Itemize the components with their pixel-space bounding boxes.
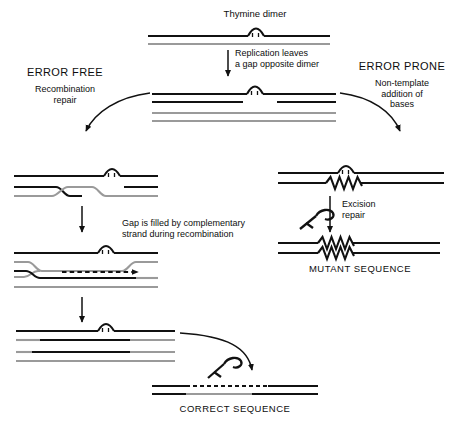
error-prone-heading: ERROR PRONE (352, 60, 452, 73)
thymine-dimer-arch-icon (248, 29, 264, 37)
correct-sequence-caption: CORRECT SEQUENCE (155, 403, 315, 414)
recombination-repair-label: Recombination repair (12, 84, 118, 105)
dna-repair-pathway-figure: Thymine dimer Replication leaves a gap o… (0, 0, 457, 423)
panel-replicated-duplexes-with-gap (152, 87, 336, 122)
panel-resolved-duplexes (16, 324, 175, 361)
thymine-dimer-title: Thymine dimer (195, 8, 315, 19)
nontemplate-addition-label: Non-template addition of bases (354, 78, 450, 110)
thymine-dimer-arch-icon (98, 324, 114, 331)
excised-dimer-hook-icon (300, 210, 333, 229)
thymine-dimer-arch-icon (338, 166, 354, 173)
excised-dimer-hook-icon (208, 358, 241, 378)
thymine-dimer-arch-icon (247, 87, 263, 95)
thymine-dimer-arch-icon (104, 169, 120, 176)
panel-mutant-duplex (278, 237, 440, 259)
panel-strand-exchange-crossover (14, 169, 158, 196)
excision-repair-label: Excision repair (342, 199, 404, 220)
error-free-heading: ERROR FREE (10, 66, 120, 79)
panel-gap-filled-by-recombination (14, 246, 158, 287)
panel-nontemplate-bases-inserted (278, 166, 444, 189)
gap-filled-note: Gap is filled by complementary strand du… (122, 218, 292, 239)
thymine-dimer-arch-icon (98, 246, 114, 253)
panel-correct-duplex (152, 386, 318, 394)
panel-intact-duplex-with-dimer (148, 29, 330, 45)
zigzag-mismatch-icon (326, 177, 362, 189)
replication-note: Replication leaves a gap opposite dimer (235, 48, 370, 69)
mutant-sequence-caption: MUTANT SEQUENCE (280, 263, 440, 274)
